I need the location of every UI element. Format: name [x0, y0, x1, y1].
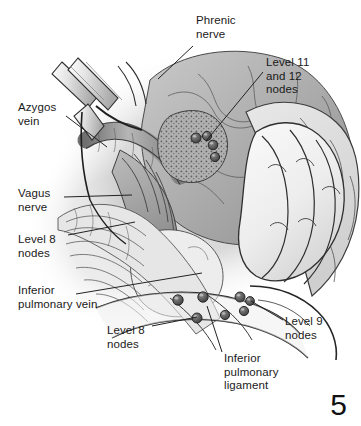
label-level-9-nodes: Level 9 nodes	[285, 315, 323, 342]
label-inferior-pulmonary-vein: Inferior pulmonary vein	[18, 284, 97, 311]
label-level-8-nodes-upper: Level 8 nodes	[18, 233, 56, 260]
node-level-11-a	[191, 133, 201, 143]
node-level-8-a	[173, 295, 183, 305]
node-level-12-b	[210, 152, 219, 161]
label-vagus-nerve: Vagus nerve	[18, 187, 50, 214]
label-level-8-nodes-lower: Level 8 nodes	[107, 324, 145, 351]
label-level-11-and-12-nodes: Level 11 and 12 nodes	[266, 56, 309, 97]
node-level-9-b	[246, 297, 255, 306]
node-level-8-d	[220, 310, 229, 319]
label-inferior-pulmonary-ligament: Inferior pulmonary ligament	[224, 352, 279, 393]
node-level-9-a	[235, 292, 245, 302]
node-level-9-c	[239, 306, 248, 315]
page-number: 5	[330, 390, 347, 420]
node-level-12-a	[208, 140, 218, 150]
figure-container: Phrenic nerveLevel 11 and 12 nodesAzygos…	[0, 0, 361, 426]
node-level-8-b	[198, 292, 208, 302]
label-phrenic-nerve: Phrenic nerve	[196, 14, 236, 41]
label-azygos-vein: Azygos vein	[18, 101, 56, 128]
